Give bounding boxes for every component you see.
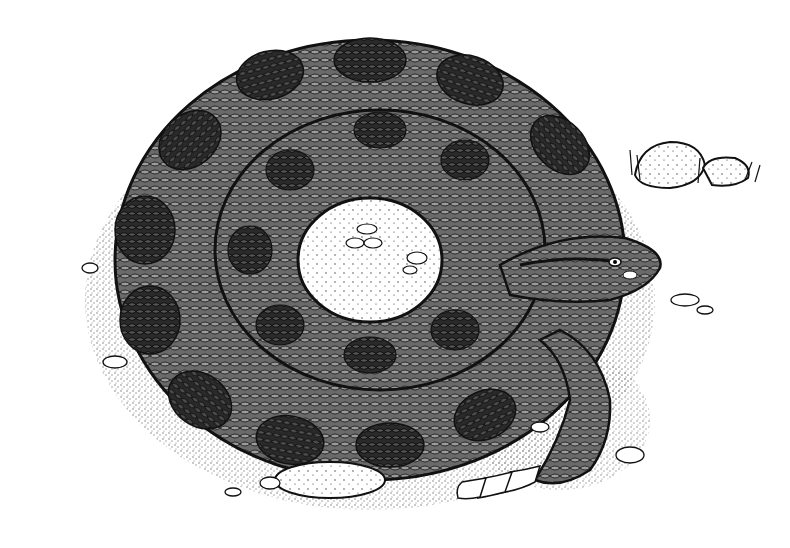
rocks	[630, 142, 760, 188]
illustration-canvas: Black-and-white stipple drawing of a coi…	[0, 0, 790, 548]
rattlesnake-illustration	[0, 0, 790, 548]
coil-center	[298, 198, 442, 322]
